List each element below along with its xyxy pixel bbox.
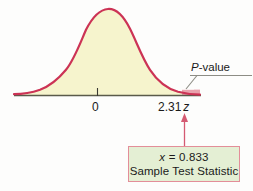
pvalue-tail-upper-edge <box>182 88 194 90</box>
critical-value-label: 2.31z <box>158 101 189 113</box>
pvalue-leader-line <box>186 76 197 90</box>
pvalue-normal-distribution-figure: 0 2.31z P-value x = 0.833 Sample Test St… <box>0 0 253 191</box>
curve-fill-area <box>14 9 200 95</box>
callout-arrow-head <box>181 113 188 122</box>
sample-test-statistic-callout: x = 0.833 Sample Test Statistic <box>128 146 240 182</box>
callout-variable-value: = 0.833 <box>165 151 208 163</box>
callout-caption: Sample Test Statistic <box>130 165 239 177</box>
critical-value-text: 2.31 <box>158 100 181 114</box>
zero-tick-label-text: 0 <box>92 100 99 114</box>
pvalue-label-suffix: -value <box>199 61 230 73</box>
callout-statistic-value: x = 0.833 <box>159 151 208 163</box>
pvalue-label-prefix: P <box>191 61 199 73</box>
pvalue-label: P-value <box>191 62 230 74</box>
zero-tick-label: 0 <box>92 101 99 113</box>
axis-variable-text: z <box>181 100 189 114</box>
